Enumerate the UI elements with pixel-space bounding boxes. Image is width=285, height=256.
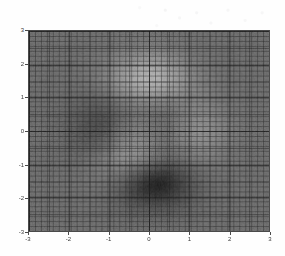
x-tick-mark bbox=[189, 232, 190, 235]
x-tick-label: -1 bbox=[101, 236, 117, 242]
y-tick-mark bbox=[25, 30, 28, 31]
y-tick-mark bbox=[25, 64, 28, 65]
x-tick-mark bbox=[28, 232, 29, 235]
x-tick-label: -3 bbox=[20, 236, 36, 242]
x-tick-label: 2 bbox=[222, 236, 238, 242]
x-tick-mark bbox=[109, 232, 110, 235]
y-tick-label: -2 bbox=[10, 195, 24, 201]
x-tick-mark bbox=[270, 232, 271, 235]
y-tick-mark bbox=[25, 97, 28, 98]
x-tick-label: -2 bbox=[60, 236, 76, 242]
x-tick-label: 0 bbox=[141, 236, 157, 242]
x-tick-label: 3 bbox=[262, 236, 278, 242]
plot-area bbox=[28, 30, 270, 232]
y-tick-mark bbox=[25, 198, 28, 199]
x-tick-label: 1 bbox=[181, 236, 197, 242]
y-tick-label: -3 bbox=[10, 229, 24, 235]
y-tick-label: 2 bbox=[10, 61, 24, 67]
y-tick-mark bbox=[25, 165, 28, 166]
x-tick-mark bbox=[230, 232, 231, 235]
y-tick-mark bbox=[25, 131, 28, 132]
x-tick-mark bbox=[68, 232, 69, 235]
y-tick-label: 3 bbox=[10, 27, 24, 33]
y-tick-label: 1 bbox=[10, 94, 24, 100]
heatmap-surface bbox=[29, 31, 269, 231]
figure-canvas: 3210-1-2-3-3-2-10123 bbox=[0, 0, 285, 256]
y-tick-label: -1 bbox=[10, 162, 24, 168]
x-tick-mark bbox=[149, 232, 150, 235]
y-tick-label: 0 bbox=[10, 128, 24, 134]
